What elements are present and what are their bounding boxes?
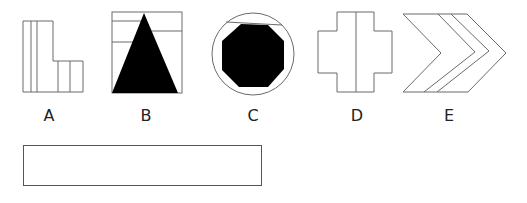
figure-d-cross [318,12,392,92]
figure-c-label: C [243,106,263,125]
figure-c[interactable] [212,13,294,95]
figure-a-outline [23,21,83,92]
figure-e-chevron [424,14,475,92]
figure-c-octagon [222,24,284,87]
figure-a-label: A [39,106,59,125]
figure-b-label: B [136,106,156,125]
figure-d[interactable] [318,12,392,92]
figure-a[interactable] [23,21,83,92]
answer-box[interactable] [23,145,262,186]
figure-d-label: D [347,106,367,125]
figure-b-triangle [112,13,178,93]
figure-e-label: E [439,106,459,125]
figure-b[interactable] [112,12,182,93]
figure-e-chevron [437,14,489,92]
figure-e-outline [403,14,506,92]
figure-e[interactable] [403,14,506,92]
